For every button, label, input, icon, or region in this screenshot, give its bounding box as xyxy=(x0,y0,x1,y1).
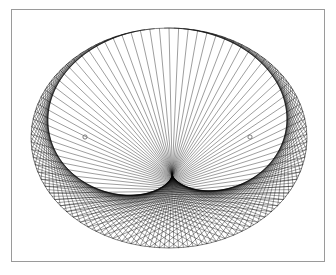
chord-line xyxy=(225,111,303,238)
chord-line xyxy=(32,127,265,218)
chord-line xyxy=(109,76,284,236)
envelope-figure xyxy=(0,0,336,275)
chord-line xyxy=(31,134,150,247)
chord-line xyxy=(41,80,52,180)
chord-line xyxy=(33,56,77,119)
chord-group xyxy=(31,28,307,248)
figure-root: Elliptical chord envelope (string-art ca… xyxy=(0,0,336,275)
chord-line xyxy=(150,29,184,247)
chord-line xyxy=(36,108,88,227)
chord-line xyxy=(41,97,66,212)
chord-line xyxy=(45,90,55,200)
chord-line xyxy=(258,97,297,222)
chord-line xyxy=(35,111,96,231)
chord-line xyxy=(169,28,174,248)
chord-line xyxy=(32,123,121,242)
chord-line xyxy=(234,108,302,235)
chord-line xyxy=(207,119,305,244)
chord-line xyxy=(33,119,113,239)
chord-line xyxy=(278,86,291,205)
chord-line xyxy=(41,179,258,222)
focus-right-marker xyxy=(248,135,252,139)
chord-line xyxy=(96,45,212,243)
chord-line xyxy=(32,59,73,127)
